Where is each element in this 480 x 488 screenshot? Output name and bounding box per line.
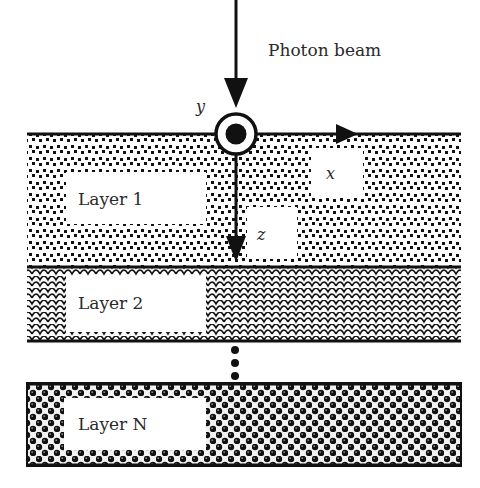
layer-n-label: Layer N bbox=[78, 414, 148, 434]
y-axis-label: y bbox=[195, 97, 206, 116]
photon-beam-arrow-icon bbox=[224, 0, 248, 108]
x-axis-label: x bbox=[326, 164, 335, 183]
layer-n: Layer N bbox=[27, 383, 461, 466]
y-axis-out-of-page-icon bbox=[216, 114, 256, 154]
layer-1-label: Layer 1 bbox=[78, 189, 143, 209]
photon-beam-label: Photon beam bbox=[268, 40, 381, 60]
layer-2-label: Layer 2 bbox=[78, 293, 143, 313]
z-axis-label: z bbox=[256, 225, 266, 244]
multilayer-diagram: Layer 1 Layer 2 Layer N Photon beam x bbox=[0, 0, 480, 488]
layer-2: Layer 2 bbox=[27, 267, 461, 341]
ellipsis-icon bbox=[231, 346, 239, 380]
